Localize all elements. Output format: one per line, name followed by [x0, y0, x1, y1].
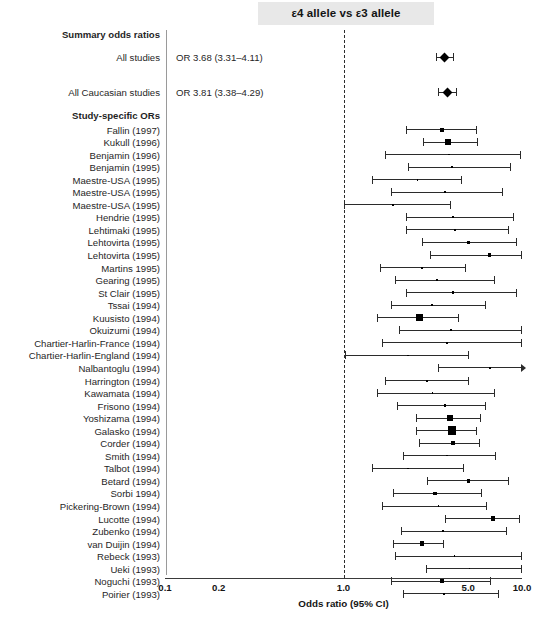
study-label-5: Maestre-USA (1995): [0, 187, 160, 198]
study-label-32: Zubenko (1994): [0, 526, 160, 537]
section-header-study-specific: Study-specific ORs: [0, 110, 160, 121]
study-label-18: Chartier-Harlin-England (1994): [0, 350, 160, 361]
ci-cap-lower: [406, 289, 407, 297]
point-estimate-marker: [417, 179, 419, 181]
confidence-interval-line: [406, 292, 515, 293]
point-estimate-marker: [416, 314, 423, 321]
confidence-interval-line: [397, 405, 485, 406]
point-estimate-marker: [436, 279, 438, 281]
confidence-interval-line: [385, 380, 469, 381]
point-estimate-marker: [469, 568, 470, 569]
study-label-13: St Clair (1995): [0, 288, 160, 299]
ci-cap-lower: [382, 502, 383, 510]
ci-cap-upper: [480, 414, 481, 422]
study-label-31: Lucotte (1994): [0, 514, 160, 525]
study-label-35: Ueki (1993): [0, 564, 160, 575]
ci-cap-lower: [401, 527, 402, 535]
ci-cap-lower: [408, 163, 409, 171]
ci-cap-lower: [419, 439, 420, 447]
point-estimate-marker: [488, 253, 491, 256]
ci-cap-lower: [427, 477, 428, 485]
point-estimate-marker: [446, 342, 448, 344]
ci-cap-lower: [391, 188, 392, 196]
confidence-interval-line: [391, 305, 485, 306]
ci-cap-lower: [430, 251, 431, 259]
ci-cap-lower: [397, 402, 398, 410]
section-header-summary: Summary odds ratios: [0, 29, 160, 40]
confidence-interval-line: [426, 568, 521, 569]
confidence-interval-line: [395, 556, 521, 557]
study-label-9: Lehtovirta (1995): [0, 237, 160, 248]
confidence-interval-line: [377, 393, 493, 394]
ci-cap-lower: [382, 339, 383, 347]
ci-cap-upper: [456, 88, 457, 96]
ci-cap-lower: [426, 565, 427, 573]
summary-or-text-1: OR 3.81 (3.38–4.29): [176, 87, 263, 98]
confidence-interval-line: [445, 518, 519, 519]
ci-cap-upper: [521, 565, 522, 573]
ci-cap-upper: [521, 339, 522, 347]
point-estimate-marker: [447, 415, 453, 421]
point-estimate-marker: [491, 516, 495, 520]
confidence-interval-line: [419, 443, 479, 444]
x-tick-label-1: 0.2: [189, 582, 249, 593]
point-estimate-marker: [450, 329, 452, 331]
summary-or-text-0: OR 3.68 (3.31–4.11): [176, 52, 263, 63]
confidence-interval-line: [393, 543, 443, 544]
ci-cap-lower: [416, 414, 417, 422]
confidence-interval-line: [436, 57, 453, 58]
confidence-interval-line: [382, 506, 486, 507]
ci-cap-upper: [485, 301, 486, 309]
ci-cap-lower: [422, 238, 423, 246]
confidence-interval-line: [345, 355, 468, 356]
study-label-24: Galasko (1994): [0, 426, 160, 437]
confidence-interval-line: [372, 179, 461, 180]
ci-cap-lower: [385, 377, 386, 385]
confidence-interval-line: [427, 480, 508, 481]
study-label-8: Lehtimaki (1995): [0, 225, 160, 236]
ci-cap-lower: [438, 364, 439, 372]
confidence-interval-line: [372, 468, 462, 469]
point-estimate-marker: [489, 367, 491, 369]
study-label-17: Chartier-Harlin-France (1994): [0, 338, 160, 349]
confidence-interval-line: [416, 430, 476, 431]
ci-cap-lower: [391, 301, 392, 309]
ci-cap-lower: [395, 552, 396, 560]
summary-label-0: All studies: [0, 52, 160, 63]
confidence-interval-line: [430, 255, 521, 256]
study-label-7: Hendrie (1995): [0, 212, 160, 223]
point-estimate-marker: [392, 204, 394, 206]
study-label-25: Corder (1994): [0, 438, 160, 449]
ci-cap-lower: [344, 201, 345, 209]
confidence-interval-line: [385, 154, 521, 155]
ci-cap-upper: [494, 276, 495, 284]
ci-cap-upper: [461, 176, 462, 184]
x-tick-label-3: 5.0: [438, 582, 498, 593]
ci-cap-upper: [516, 289, 517, 297]
summary-label-1: All Caucasian studies: [0, 87, 160, 98]
ci-arrow-upper: [521, 364, 526, 372]
ci-cap-upper: [516, 238, 517, 246]
point-estimate-marker: [407, 468, 409, 470]
x-tick-label-0: 0.1: [135, 582, 195, 593]
plot-title: ε4 allele vs ε3 allele: [258, 2, 434, 25]
confidence-interval-line: [403, 455, 496, 456]
confidence-interval-line: [406, 129, 476, 130]
study-label-22: Frisono (1994): [0, 401, 160, 412]
ci-cap-upper: [502, 188, 503, 196]
point-estimate-marker: [431, 304, 433, 306]
ci-cap-upper: [443, 540, 444, 548]
ci-cap-upper: [479, 439, 480, 447]
point-estimate-marker: [442, 530, 444, 532]
confidence-interval-line: [393, 493, 481, 494]
point-estimate-marker: [448, 426, 457, 435]
ci-cap-upper: [494, 389, 495, 397]
ci-cap-upper: [508, 226, 509, 234]
ci-cap-upper: [453, 53, 454, 61]
study-label-15: Kuusisto (1994): [0, 313, 160, 324]
ci-cap-lower: [372, 464, 373, 472]
confidence-interval-line: [408, 167, 510, 168]
ci-cap-lower: [438, 88, 439, 96]
study-label-23: Yoshizama (1994): [0, 413, 160, 424]
confidence-interval-line: [395, 280, 494, 281]
